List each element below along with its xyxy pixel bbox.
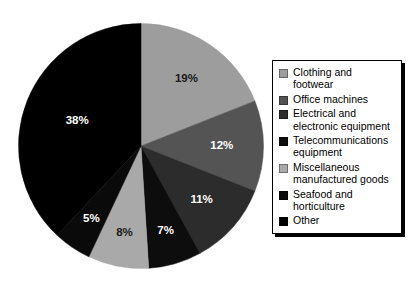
pie-slice-data-label: 7% [157,224,174,236]
legend-item[interactable]: Electrical and electronic equipment [279,107,396,132]
pie-chart-plot-area: 19%12%11%7%8%5%38% [18,23,264,269]
pie-slice-data-label: 11% [190,193,212,205]
legend-swatch-icon [279,110,288,119]
legend-item[interactable]: Telecommunications equipment [279,134,396,159]
legend-item-label: Miscellaneous manufactured goods [293,161,389,186]
legend-item-label: Office machines [293,93,368,105]
legend-item[interactable]: Clothing and footwear [279,66,396,91]
legend-item-label: Telecommunications equipment [293,134,388,159]
chart-legend: Clothing and footwearOffice machinesElec… [272,60,402,234]
pie-slice-data-label: 38% [66,114,89,126]
pie-chart-figure: 19%12%11%7%8%5%38% Clothing and footwear… [0,0,417,288]
legend-swatch-icon [279,137,288,146]
legend-swatch-icon [279,217,288,226]
legend-item[interactable]: Seafood and horticulture [279,188,396,213]
pie-slice-data-label: 12% [210,139,233,151]
legend-item[interactable]: Miscellaneous manufactured goods [279,161,396,186]
pie-slice-data-label: 5% [83,212,100,224]
legend-swatch-icon [279,96,288,105]
pie-svg: 19%12%11%7%8%5%38% [18,23,264,269]
legend-item[interactable]: Office machines [279,93,396,105]
legend-item-label: Electrical and electronic equipment [293,107,390,132]
legend-swatch-icon [279,69,288,78]
legend-item[interactable]: Other [279,214,396,226]
pie-slice-data-label: 19% [175,72,198,84]
legend-swatch-icon [279,191,288,200]
pie-slice-data-label: 8% [116,226,133,238]
legend-item-label: Other [293,214,319,226]
legend-item-label: Clothing and footwear [293,66,352,91]
legend-item-label: Seafood and horticulture [293,188,353,213]
legend-swatch-icon [279,164,288,173]
